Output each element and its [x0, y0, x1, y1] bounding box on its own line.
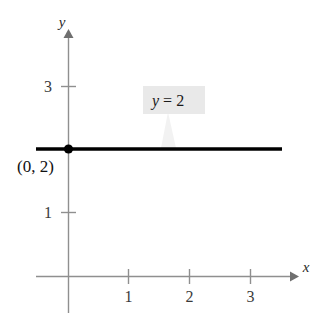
- intercept-point-marker: [64, 144, 73, 153]
- coordinate-plane: y x 1 2 3 3 1 (0, 2) y = 2: [0, 0, 320, 325]
- x-tick-label-3: 3: [247, 288, 255, 305]
- y-tick-label-3: 3: [44, 78, 52, 95]
- x-tick-label-1: 1: [125, 288, 133, 305]
- y-axis-arrowhead: [64, 29, 74, 38]
- y-tick-label-1: 1: [44, 204, 52, 221]
- callout-leader: [161, 112, 176, 148]
- intercept-label: (0, 2): [17, 157, 54, 176]
- x-axis-label: x: [302, 259, 310, 275]
- equation-value: 2: [176, 92, 184, 109]
- equation-operator: =: [159, 92, 176, 109]
- graph-figure: y x 1 2 3 3 1 (0, 2) y = 2: [0, 0, 320, 325]
- x-tick-label-2: 2: [186, 288, 194, 305]
- y-axis-label: y: [57, 14, 66, 30]
- x-axis-arrowhead: [290, 272, 299, 282]
- equation-callout-label: y = 2: [150, 92, 184, 110]
